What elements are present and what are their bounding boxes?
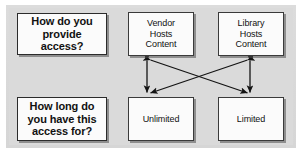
node-library-hosts-content[interactable]: Library Hosts Content [218,12,284,56]
question-box-provide-access: How do you provide access? [17,13,107,55]
question-box-access-duration: How long do you have this access for? [17,97,107,141]
node-library-hosts-content-label: Library Hosts Content [233,18,270,50]
node-limited-label: Limited [234,114,268,125]
library-line-2: Hosts [240,29,263,39]
node-unlimited[interactable]: Unlimited [128,97,194,141]
question-box-access-duration-label: How long do you have this access for? [18,100,106,139]
node-vendor-hosts-content-label: Vendor Hosts Content [143,18,180,50]
diagram-canvas: How do you provide access? How long do y… [0,0,302,159]
question-box-provide-access-label: How do you provide access? [18,15,106,54]
node-unlimited-label: Unlimited [140,114,183,125]
vendor-line-1: Vendor [147,18,175,28]
library-line-3: Content [236,39,267,49]
node-vendor-hosts-content[interactable]: Vendor Hosts Content [128,12,194,56]
vendor-line-3: Content [146,39,177,49]
vendor-line-2: Hosts [150,29,173,39]
library-line-1: Library [238,18,265,28]
node-limited[interactable]: Limited [218,97,284,141]
